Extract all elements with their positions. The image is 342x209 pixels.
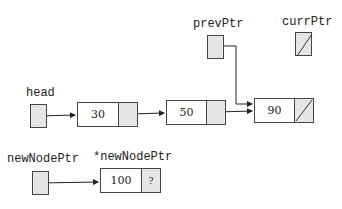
node-next-field (206, 101, 225, 124)
node-value: 30 (78, 103, 118, 126)
unknown-next-field: ? (141, 169, 160, 192)
node-value: 90 (255, 99, 294, 122)
prevptr-label: prevPtr (193, 17, 243, 31)
new-node-100: 100 ? (100, 168, 161, 193)
null-slash-icon (296, 33, 313, 57)
node-50: 50 (166, 100, 226, 125)
node-next-field (118, 103, 137, 126)
node-value: 50 (167, 101, 206, 124)
newnodeptr-box (32, 171, 49, 195)
newnodeptr-label: newNodePtr (7, 152, 79, 166)
node-value: 100 (101, 169, 141, 192)
node-30: 30 (77, 102, 138, 127)
null-slash-icon (295, 99, 313, 122)
head-label: head (26, 86, 55, 100)
currptr-null-box (295, 32, 312, 56)
prevptr-box (207, 35, 224, 59)
node-90: 90 (254, 98, 314, 123)
head-pointer-box (30, 104, 47, 128)
currptr-label: currPtr (282, 15, 332, 29)
deref-newnodeptr-label: *newNodePtr (93, 150, 172, 164)
null-next-field (294, 99, 313, 122)
